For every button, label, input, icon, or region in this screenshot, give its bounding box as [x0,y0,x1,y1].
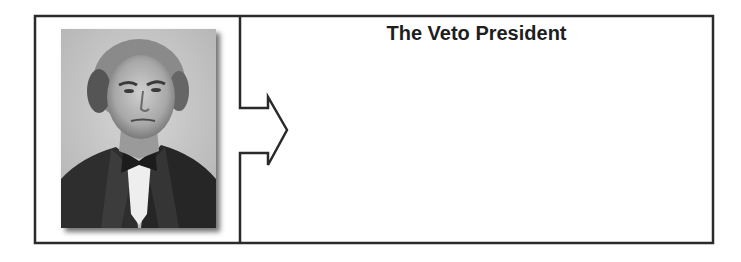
graphic-organizer: The Veto President [0,0,741,262]
portrait-image [61,29,216,228]
organizer-title: The Veto President [240,22,713,45]
answer-area[interactable] [292,52,708,238]
portrait-photo [61,29,216,228]
arrow-icon [240,16,287,243]
